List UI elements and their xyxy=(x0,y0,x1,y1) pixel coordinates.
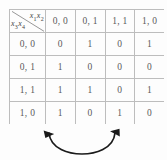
axis-label-corner-cell: x1x2 x3x4 xyxy=(10,10,46,33)
kmap-table: x1x2 x3x4 0, 0 0, 1 1, 1 1, 0 0, 0 0 1 0… xyxy=(9,9,164,124)
kmap-cell: 1 xyxy=(46,79,76,102)
kmap-cell: 0 xyxy=(105,33,135,56)
row-header: 1, 1 xyxy=(10,79,46,102)
kmap-cell: 1 xyxy=(135,79,164,102)
table-row: 1, 0 1 0 1 0 xyxy=(10,102,165,125)
column-header: 0, 1 xyxy=(75,10,105,33)
table-row: 0, 0 0 1 0 1 xyxy=(10,33,165,56)
kmap-cell: 1 xyxy=(75,33,105,56)
kmap-cell: 0 xyxy=(135,102,164,125)
column-adjacency-arrow-icon xyxy=(44,129,124,157)
kmap-cell: 0 xyxy=(75,56,105,79)
kmap-cell: 0 xyxy=(135,56,164,79)
axis-label-rows-sub2: 4 xyxy=(22,24,25,30)
row-header: 0, 0 xyxy=(10,33,46,56)
row-header: 0, 1 xyxy=(10,56,46,79)
kmap-cell: 0 xyxy=(75,102,105,125)
table-header-row: x1x2 x3x4 0, 0 0, 1 1, 1 1, 0 xyxy=(10,10,165,33)
kmap-cell: 0 xyxy=(105,56,135,79)
kmap-cell: 0 xyxy=(46,33,76,56)
kmap-cell: 1 xyxy=(105,102,135,125)
kmap-cell: 1 xyxy=(46,56,76,79)
column-header: 1, 1 xyxy=(105,10,135,33)
axis-label-columns: x1x2 xyxy=(30,11,44,22)
kmap-cell: 1 xyxy=(46,102,76,125)
karnaugh-map: x1x2 x3x4 0, 0 0, 1 1, 1 1, 0 0, 0 0 1 0… xyxy=(0,0,167,160)
row-header: 1, 0 xyxy=(10,102,46,125)
column-header: 1, 0 xyxy=(135,10,164,33)
kmap-cell: 1 xyxy=(135,33,164,56)
table-row: 0, 1 1 0 0 0 xyxy=(10,56,165,79)
kmap-cell: 1 xyxy=(75,79,105,102)
column-header: 0, 0 xyxy=(46,10,76,33)
axis-label-columns-sub2: 2 xyxy=(41,16,44,22)
kmap-cell: 0 xyxy=(105,79,135,102)
axis-label-rows: x3x4 xyxy=(11,19,25,30)
table-row: 1, 1 1 1 0 1 xyxy=(10,79,165,102)
